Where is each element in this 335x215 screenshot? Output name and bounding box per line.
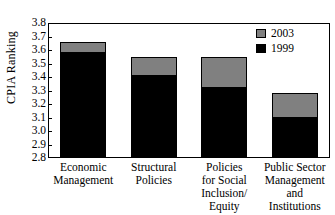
y-axis-tick-label: 3.3 (22, 85, 46, 97)
x-axis-category-label: Structural Policies (119, 161, 190, 187)
y-axis-tick-label: 3.1 (22, 112, 46, 124)
bar-segment-2003 (60, 42, 106, 53)
y-axis-tick-label: 3.7 (22, 31, 46, 43)
x-axis-category-label: Public Sector Management and Institution… (260, 161, 331, 213)
y-axis-tick-label: 2.9 (22, 139, 46, 151)
bar-segment-1999 (272, 118, 318, 159)
bar-group (131, 57, 177, 158)
legend-label-2003: 2003 (271, 26, 294, 40)
x-axis-category-label: Economic Management (48, 161, 119, 187)
y-axis-tick-label: 3.4 (22, 71, 46, 83)
bar-group (60, 42, 106, 158)
y-axis-tick-label: 3.2 (22, 98, 46, 110)
bar-group (272, 93, 318, 158)
chart-legend: 2003 1999 (256, 26, 294, 56)
bar-segment-1999 (201, 88, 247, 158)
bar-group (201, 57, 247, 158)
legend-swatch-1999-icon (256, 44, 266, 53)
bar-segment-2003 (272, 93, 318, 117)
bar-segment-2003 (201, 57, 247, 89)
y-axis-tick-label: 3.8 (22, 17, 46, 29)
y-axis-tick-label: 3.5 (22, 58, 46, 70)
legend-label-1999: 1999 (271, 41, 294, 55)
bar-segment-1999 (60, 53, 106, 158)
legend-item-2003: 2003 (256, 26, 294, 40)
y-axis-tick-label: 2.8 (22, 152, 46, 164)
bar-segment-1999 (131, 76, 177, 158)
y-axis-tick-label: 3.0 (22, 125, 46, 137)
cpia-ranking-bar-chart: CPIA Ranking 3.83.73.63.53.43.33.23.13.0… (0, 0, 335, 215)
bar-segment-2003 (131, 57, 177, 75)
legend-item-1999: 1999 (256, 41, 294, 55)
legend-swatch-2003-icon (256, 29, 266, 38)
y-axis-title: CPIA Ranking (4, 13, 19, 123)
x-axis-category-label: Policies for Social Inclusion/ Equity (189, 161, 260, 213)
y-axis-tick-label: 3.6 (22, 44, 46, 56)
